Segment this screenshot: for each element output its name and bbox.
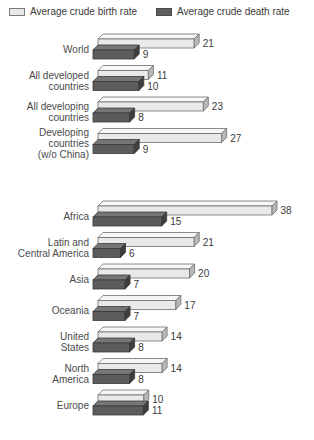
bar-group-development-groups: 219World1110All developedcountries238All…	[27, 34, 242, 160]
death-rate-value: 15	[170, 216, 182, 227]
category-label: NorthAmerica	[52, 363, 89, 385]
category-label: All developedcountries	[29, 70, 89, 92]
death-rate-bar-front-face	[93, 312, 125, 321]
birth-rate-value: 27	[230, 133, 242, 144]
category-label: Latin andCentral America	[18, 237, 90, 259]
chart-container: Average crude birth rate Average crude d…	[0, 0, 314, 440]
category-label-line: States	[61, 342, 89, 353]
death-rate-bar-top-face	[93, 307, 130, 312]
death-rate-value: 7	[134, 311, 140, 322]
death-rate-bar-front-face	[93, 217, 162, 226]
death-rate-bar-top-face	[93, 108, 135, 113]
death-rate-bar-front-face	[93, 50, 134, 59]
category-label-line: World	[63, 44, 89, 55]
death-rate-bar-top-face	[93, 244, 125, 249]
death-rate-bar	[93, 212, 167, 226]
category-label-line: Central America	[18, 248, 90, 259]
birth-rate-value: 14	[171, 331, 183, 342]
category-label-line: Latin and	[48, 237, 89, 248]
category-label-line: Developing	[39, 127, 89, 138]
category-label: Oceania	[52, 305, 90, 316]
category-label-line: United	[60, 331, 89, 342]
birth-rate-bar-top-face	[98, 327, 167, 332]
category-label-line: All developing	[27, 101, 89, 112]
death-rate-bar	[93, 401, 148, 415]
birth-rate-bar-top-face	[98, 264, 195, 269]
birth-rate-bar-top-face	[98, 97, 208, 102]
death-rate-bar	[93, 307, 130, 321]
category-label: Africa	[63, 211, 89, 222]
birth-rate-value: 21	[203, 38, 215, 49]
chart-row: 148UnitedStates	[60, 327, 182, 353]
birth-rate-bar-top-face	[98, 296, 181, 301]
death-rate-bar	[93, 140, 139, 154]
death-rate-value: 11	[152, 405, 163, 416]
death-rate-bar-front-face	[93, 406, 143, 415]
birth-rate-value: 14	[171, 363, 183, 374]
death-rate-bar-front-face	[93, 113, 130, 122]
category-label-line: (w/o China)	[38, 149, 89, 160]
death-rate-bar-top-face	[93, 338, 135, 343]
chart-row: 3815Africa	[63, 201, 292, 227]
category-label-line: countries	[48, 112, 89, 123]
birth-rate-value: 11	[157, 70, 168, 81]
death-rate-bar-front-face	[93, 249, 120, 258]
death-rate-value: 8	[138, 112, 144, 123]
category-label: Developingcountries(w/o China)	[38, 127, 89, 160]
category-label: UnitedStates	[60, 331, 89, 353]
birth-rate-bar-top-face	[98, 66, 153, 71]
birth-rate-bar-top-face	[98, 359, 167, 364]
death-rate-bar	[93, 77, 144, 91]
death-rate-value: 9	[143, 144, 149, 155]
death-rate-value: 8	[138, 342, 144, 353]
death-rate-bar-front-face	[93, 280, 125, 289]
birth-rate-bar-top-face	[98, 390, 149, 395]
category-label-line: All developed	[29, 70, 89, 81]
death-rate-bar	[93, 275, 130, 289]
death-rate-bar-front-face	[93, 343, 130, 352]
category-label-line: Europe	[57, 400, 90, 411]
category-label: World	[63, 44, 89, 55]
chart-row: 238All developingcountries	[27, 97, 224, 123]
death-rate-bar-front-face	[93, 82, 139, 91]
chart-row: 216Latin andCentral America	[18, 233, 214, 259]
category-label: Europe	[57, 400, 90, 411]
chart-row: 1110All developedcountries	[29, 66, 168, 92]
category-label-line: Africa	[63, 211, 89, 222]
death-rate-bar-top-face	[93, 45, 139, 50]
death-rate-bar	[93, 108, 135, 122]
death-rate-value: 9	[143, 49, 149, 60]
death-rate-bar-top-face	[93, 275, 130, 280]
death-rate-bar-front-face	[93, 375, 130, 384]
category-label-line: countries	[48, 138, 89, 149]
death-rate-bar	[93, 45, 139, 59]
chart-row: 1011Europe	[57, 390, 164, 416]
death-rate-value: 10	[147, 81, 159, 92]
death-rate-bar	[93, 370, 135, 384]
chart-row: 279Developingcountries(w/o China)	[38, 127, 242, 160]
category-label: Asia	[70, 274, 90, 285]
death-rate-bar-top-face	[93, 401, 148, 406]
death-rate-value: 8	[138, 374, 144, 385]
death-rate-bar	[93, 244, 125, 258]
category-label-line: Asia	[70, 274, 90, 285]
category-label-line: America	[52, 374, 89, 385]
birth-rate-bar-top-face	[98, 233, 199, 238]
death-rate-bar	[93, 338, 135, 352]
category-label-line: Oceania	[52, 305, 90, 316]
death-rate-bar-top-face	[93, 77, 144, 82]
birth-rate-value: 23	[212, 101, 224, 112]
chart-row: 219World	[63, 34, 214, 60]
birth-rate-value: 21	[203, 237, 215, 248]
chart-row: 177Oceania	[52, 296, 196, 322]
death-rate-value: 7	[134, 279, 140, 290]
category-label: All developingcountries	[27, 101, 89, 123]
category-label-line: North	[65, 363, 89, 374]
chart-row: 148NorthAmerica	[52, 359, 182, 385]
category-label-line: countries	[48, 81, 89, 92]
death-rate-bar-top-face	[93, 370, 135, 375]
birth-rate-value: 20	[198, 268, 210, 279]
birth-rate-bar-top-face	[98, 201, 277, 206]
birth-rate-bar-top-face	[98, 129, 227, 134]
birth-rate-value: 17	[184, 300, 196, 311]
